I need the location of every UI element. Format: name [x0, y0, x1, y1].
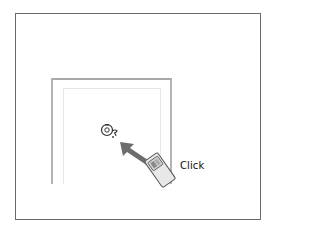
click-action-label: Click: [180, 160, 204, 171]
remote-control-icon: [143, 150, 177, 190]
busy-cursor-icon: [100, 122, 122, 142]
